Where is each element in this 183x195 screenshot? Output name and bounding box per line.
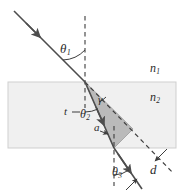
refraction-diagram: θ1 θ2 θ3 γ a t d n1 n2 [0, 0, 183, 195]
label-gamma: γ [98, 94, 102, 105]
label-side-a: a [94, 122, 100, 133]
label-theta1: θ1 [60, 42, 70, 55]
incident-ray [14, 11, 85, 82]
label-thickness-t: t [64, 106, 67, 117]
label-theta3: θ3 [112, 166, 122, 178]
d-arrow-upper [155, 149, 167, 161]
incident-ray-arrow [26, 23, 40, 37]
d-arrow-lower [126, 179, 137, 190]
label-theta2: θ2 [80, 108, 90, 120]
label-index-n1: n1 [150, 62, 160, 74]
label-displacement-d: d [150, 163, 157, 176]
label-index-n2: n2 [150, 91, 160, 103]
